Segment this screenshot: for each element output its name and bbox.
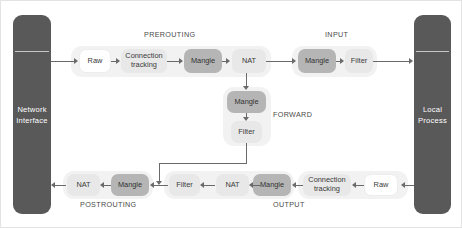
connector-nat-to-forward-mangle bbox=[246, 73, 247, 87]
box-input-mangle: Mangle bbox=[298, 49, 336, 73]
box-postrouting-nat: NAT bbox=[67, 174, 100, 196]
connector-conntrack-to-mangle bbox=[167, 61, 179, 62]
arrowhead-output-mangle-to-nat bbox=[249, 182, 253, 188]
connector-local-process-to-raw bbox=[405, 185, 414, 186]
netfilter-flow-diagram: Network Interface Local Process PREROUTI… bbox=[0, 0, 462, 228]
connector-postrouting-mangle-to-nat bbox=[104, 185, 111, 186]
arrowhead-postrouting-nat-to-ni bbox=[51, 182, 55, 188]
box-prerouting-raw: Raw bbox=[79, 49, 111, 73]
arrowhead-mangle-to-nat bbox=[226, 58, 230, 64]
arrowhead-output-conntrack-to-mangle bbox=[292, 182, 296, 188]
arrowhead-ni-to-raw bbox=[74, 58, 78, 64]
arrowhead-raw-to-conntrack bbox=[116, 58, 120, 64]
box-forward-filter: Filter bbox=[231, 121, 262, 143]
box-prerouting-nat: NAT bbox=[232, 49, 266, 73]
connector-forward-filter-down bbox=[246, 143, 247, 163]
connector-forward-to-postrouting-horizontal bbox=[159, 163, 247, 164]
connector-output-filter-to-postrouting-mangle bbox=[154, 185, 168, 186]
box-output-connection-tracking: Connection tracking bbox=[303, 174, 351, 196]
endpoint-seam-left bbox=[15, 51, 49, 52]
box-prerouting-mangle: Mangle bbox=[184, 49, 222, 73]
connector-output-nat-to-filter bbox=[204, 185, 215, 186]
connector-postrouting-nat-to-ni bbox=[55, 185, 66, 186]
local-process-label-line2: Process bbox=[418, 115, 447, 126]
caption-forward: FORWARD bbox=[273, 110, 312, 119]
connector-forward-to-postrouting-down bbox=[159, 163, 160, 183]
arrowhead-output-nat-to-filter bbox=[200, 182, 204, 188]
arrowhead-forward-mangle-to-filter bbox=[243, 117, 249, 121]
connector-output-mangle-to-nat bbox=[253, 185, 261, 186]
arrowhead-output-raw-to-conntrack bbox=[352, 182, 356, 188]
arrowhead-nat-to-forward-mangle bbox=[243, 86, 249, 90]
connector-output-conntrack-to-mangle bbox=[296, 185, 303, 186]
box-output-nat: NAT bbox=[216, 174, 249, 196]
arrowhead-input-filter-to-local-process bbox=[409, 58, 413, 64]
arrowhead-local-process-to-raw bbox=[401, 182, 405, 188]
local-process-endpoint: Local Process bbox=[414, 15, 451, 214]
caption-prerouting: PREROUTING bbox=[144, 30, 195, 39]
box-forward-mangle: Mangle bbox=[227, 91, 266, 113]
local-process-label-line1: Local bbox=[423, 104, 442, 115]
connector-nat-to-input-mangle bbox=[266, 61, 292, 62]
box-postrouting-mangle: Mangle bbox=[111, 174, 149, 196]
caption-postrouting: POSTROUTING bbox=[80, 200, 137, 209]
connector-output-raw-to-conntrack bbox=[356, 185, 364, 186]
box-output-filter: Filter bbox=[169, 174, 200, 196]
network-interface-label-line1: Network bbox=[17, 104, 46, 115]
connector-input-filter-to-local-process bbox=[373, 61, 410, 62]
network-interface-endpoint: Network Interface bbox=[13, 15, 51, 214]
connector-ni-to-raw bbox=[51, 61, 75, 62]
network-interface-label-line2: Interface bbox=[16, 115, 47, 126]
caption-input: INPUT bbox=[325, 30, 348, 39]
arrowhead-output-filter-to-postrouting-mangle bbox=[150, 182, 154, 188]
arrowhead-nat-to-input-mangle bbox=[292, 58, 296, 64]
arrowhead-postrouting-mangle-to-nat bbox=[100, 182, 104, 188]
box-prerouting-connection-tracking: Connection tracking bbox=[121, 49, 167, 73]
box-input-filter: Filter bbox=[345, 49, 373, 73]
caption-output: OUTPUT bbox=[273, 200, 305, 209]
arrowhead-conntrack-to-mangle bbox=[179, 58, 183, 64]
box-output-raw: Raw bbox=[364, 174, 398, 196]
endpoint-seam-right bbox=[416, 51, 449, 52]
arrowhead-input-mangle-to-filter bbox=[340, 58, 344, 64]
